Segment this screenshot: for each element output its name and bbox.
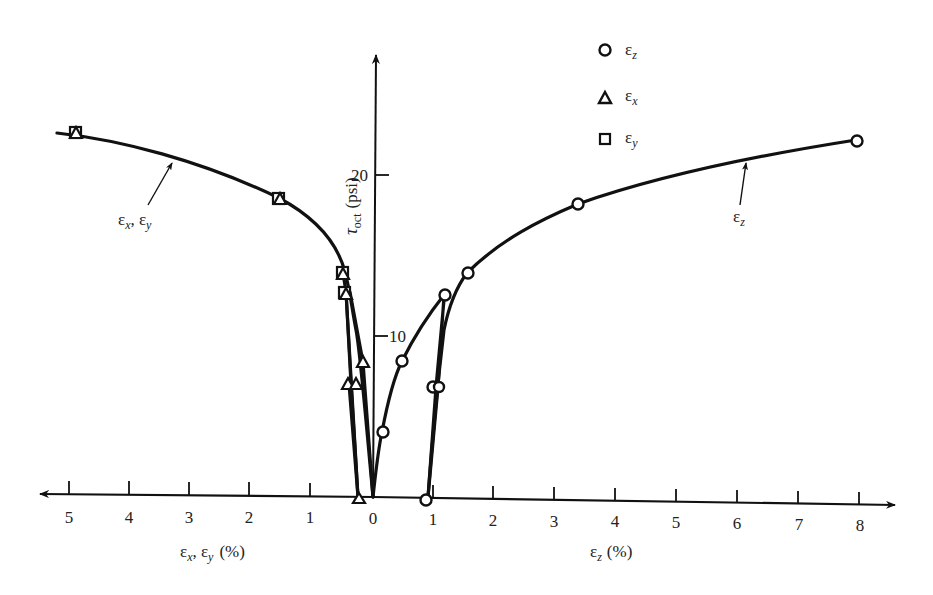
svg-text:2: 2 [245, 508, 254, 527]
svg-text:7: 7 [795, 515, 804, 534]
triangle-marker-icon [599, 92, 611, 103]
svg-text:1: 1 [429, 510, 438, 529]
svg-text:0: 0 [369, 509, 378, 528]
svg-text:εz: εz [733, 207, 745, 229]
legend-item-ex: εx [599, 86, 638, 108]
svg-text:εz(%): εz(%) [590, 542, 632, 564]
curve-ex-ey [57, 133, 373, 497]
chart: 5 4 3 2 1 0 1 2 3 4 5 6 7 8 10 20 εx, εy… [0, 0, 933, 595]
svg-text:τoct(psi): τoct(psi) [340, 177, 364, 235]
curve-ez [373, 140, 856, 497]
svg-text:1: 1 [306, 508, 315, 527]
svg-text:3: 3 [185, 508, 194, 527]
x-tick-labels-right: 1 2 3 4 5 6 7 8 [429, 510, 865, 535]
svg-text:5: 5 [65, 508, 74, 527]
square-marker-icon [600, 134, 610, 144]
svg-text:10: 10 [389, 327, 406, 346]
x-axis-label-right: εz(%) [590, 542, 632, 564]
svg-text:8: 8 [856, 516, 865, 535]
annotation-ez: εz [733, 163, 746, 229]
svg-text:εy: εy [625, 128, 638, 150]
legend: εz εx εy [599, 40, 638, 150]
x-axis-label-left: εx, εy(%) [180, 542, 245, 564]
svg-text:εz: εz [625, 40, 637, 62]
svg-text:4: 4 [125, 508, 134, 527]
markers-ex-ey [70, 127, 369, 503]
circle-marker-icon [600, 45, 611, 56]
annotation-ex-ey: εx, εy [118, 163, 172, 232]
svg-text:εx, εy: εx, εy [118, 210, 152, 232]
svg-text:6: 6 [733, 514, 742, 533]
x-axis [40, 494, 895, 505]
x-tick-labels-left: 5 4 3 2 1 0 [65, 508, 378, 528]
svg-text:εx: εx [625, 86, 638, 108]
legend-item-ey: εy [600, 128, 638, 150]
svg-text:εx, εy(%): εx, εy(%) [180, 542, 245, 564]
legend-item-ez: εz [600, 40, 638, 62]
svg-text:3: 3 [550, 512, 559, 531]
y-axis-label: τoct(psi) [340, 177, 364, 235]
svg-text:5: 5 [672, 513, 681, 532]
svg-text:2: 2 [489, 511, 498, 530]
svg-text:4: 4 [611, 512, 620, 531]
